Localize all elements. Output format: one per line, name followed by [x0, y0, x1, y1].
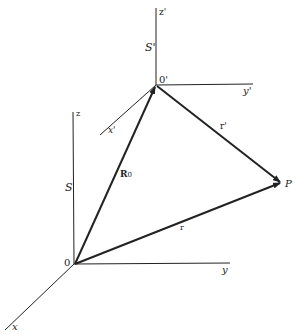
- label-r: r: [180, 224, 184, 232]
- label-r0-subscript: 0: [127, 171, 131, 179]
- y-prime-axis: [156, 84, 253, 85]
- y-axis: [74, 263, 230, 264]
- label-o-prime: 0': [159, 75, 168, 85]
- label-p: P: [285, 179, 292, 189]
- label-s-prime: S': [145, 42, 156, 53]
- label-y: y: [222, 265, 228, 275]
- label-z: z: [76, 110, 80, 118]
- label-z-prime: z': [159, 8, 166, 17]
- label-y-prime: y': [243, 86, 251, 96]
- label-s: S: [65, 182, 73, 193]
- label-r-prime: r': [220, 122, 227, 131]
- label-x: x: [12, 322, 18, 332]
- reference-frames-diagram: z' S' 0' y' x' r' z S R0 P r 0 y x: [0, 0, 299, 334]
- z-axis: [73, 112, 74, 264]
- label-o: 0: [64, 258, 70, 268]
- label-r0: R0: [120, 170, 132, 179]
- label-x-prime: x': [108, 126, 116, 135]
- vector-r-prime: [157, 86, 280, 182]
